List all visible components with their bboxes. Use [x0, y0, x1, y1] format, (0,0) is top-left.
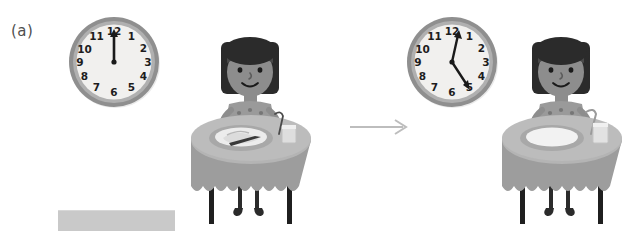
svg-text:6: 6: [110, 86, 117, 98]
clock-before: 12 1 2 3 4 5 6 7 8 9 10 11: [66, 14, 162, 110]
svg-text:8: 8: [81, 70, 88, 82]
svg-text:11: 11: [427, 30, 442, 42]
clock-after: 12 1 2 3 4 5 6 7 8 9 10 11: [404, 14, 500, 110]
svg-text:10: 10: [77, 43, 92, 55]
svg-text:3: 3: [144, 56, 151, 68]
svg-text:1: 1: [466, 30, 473, 42]
scene-before: [183, 28, 323, 228]
scene-after: [494, 28, 634, 228]
part-label: (a): [11, 22, 33, 40]
transition-arrow: [349, 118, 413, 140]
svg-text:11: 11: [89, 30, 104, 42]
svg-text:5: 5: [128, 81, 135, 93]
svg-text:2: 2: [140, 42, 147, 54]
svg-text:9: 9: [76, 56, 83, 68]
svg-text:6: 6: [448, 86, 455, 98]
svg-text:7: 7: [93, 81, 100, 93]
svg-text:1: 1: [128, 30, 135, 42]
svg-text:10: 10: [415, 43, 430, 55]
svg-text:3: 3: [482, 56, 489, 68]
svg-text:7: 7: [431, 81, 438, 93]
svg-text:2: 2: [478, 42, 485, 54]
svg-text:4: 4: [478, 70, 485, 82]
svg-text:8: 8: [419, 70, 426, 82]
svg-text:9: 9: [414, 56, 421, 68]
figure-canvas: (a) 12 1 2 3 4 5 6 7 8 9 10 11: [0, 0, 637, 231]
redaction-bar: [58, 210, 175, 231]
svg-text:4: 4: [140, 70, 147, 82]
